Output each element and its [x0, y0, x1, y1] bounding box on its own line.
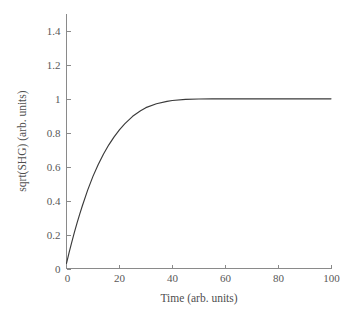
y-axis-title: sqrt(SHG) (arb. units): [16, 90, 29, 191]
y-tick-label: 1.2: [47, 59, 61, 71]
x-tick-label: 40: [167, 272, 179, 284]
chart-figure: 00.20.40.60.811.21.4 020406080100 Time (…: [0, 0, 355, 317]
x-tick-label: 60: [220, 272, 232, 284]
x-tick-label: 20: [114, 272, 126, 284]
y-tick-label: 0.4: [47, 195, 61, 207]
chart-background: [0, 0, 355, 317]
x-tick-label: 100: [323, 272, 340, 284]
x-tick-label: 80: [273, 272, 285, 284]
x-axis-title: Time (arb. units): [160, 292, 237, 305]
y-tick-label: 0: [55, 263, 61, 275]
y-tick-label: 0.2: [47, 229, 61, 241]
y-tick-label: 1.4: [47, 25, 61, 37]
y-tick-label: 1: [55, 93, 61, 105]
chart-canvas: 00.20.40.60.811.21.4 020406080100 Time (…: [0, 0, 355, 317]
y-tick-label: 0.8: [47, 127, 61, 139]
x-tick-label: 0: [65, 272, 71, 284]
y-tick-label: 0.6: [47, 161, 61, 173]
